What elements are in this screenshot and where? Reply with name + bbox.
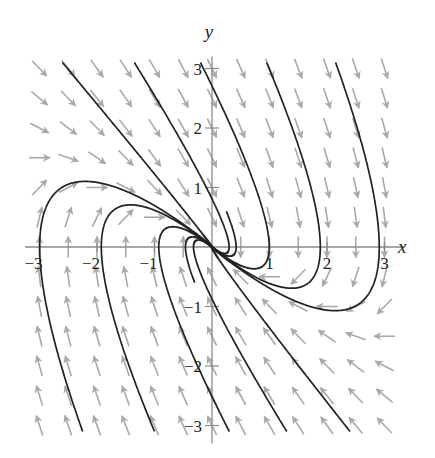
field-arrow-icon [348, 388, 363, 403]
y-tick-label: −1 [184, 298, 202, 317]
y-tick-label: −3 [184, 417, 202, 436]
field-arrow-icon [347, 360, 364, 373]
field-arrow-icon [92, 208, 101, 227]
field-arrow-icon [236, 416, 246, 435]
field-arrow-icon [262, 299, 277, 314]
field-arrow-icon [178, 179, 189, 197]
field-arrow-icon [291, 329, 306, 344]
field-arrow-icon [325, 177, 330, 197]
field-arrow-icon [118, 210, 133, 225]
field-arrow-icon [324, 148, 330, 168]
x-tick-label: −2 [82, 254, 100, 273]
field-arrow-icon [354, 207, 357, 228]
field-arrow-icon [122, 386, 129, 406]
field-arrow-icon [353, 88, 359, 108]
field-arrow-icon [91, 60, 103, 77]
field-arrow-icon [123, 296, 129, 316]
field-arrow-icon [295, 88, 302, 108]
trajectory-curve [212, 211, 236, 256]
field-arrow-icon [149, 89, 160, 107]
x-tick-label: −3 [24, 254, 42, 273]
field-arrow-icon [149, 119, 160, 137]
field-arrow-icon [123, 326, 129, 346]
field-arrow-icon [124, 266, 128, 287]
field-arrow-icon [90, 120, 105, 135]
field-arrow-icon [122, 356, 129, 376]
field-arrow-icon [321, 417, 333, 434]
field-arrow-icon [95, 296, 100, 316]
field-arrow-icon [120, 90, 132, 107]
field-arrow-icon [377, 418, 392, 433]
field-arrow-icon [320, 358, 335, 373]
field-arrow-icon [151, 297, 157, 317]
field-arrow-icon [295, 177, 301, 197]
x-tick-label: 3 [380, 254, 389, 273]
field-arrow-icon [293, 417, 304, 435]
field-arrow-icon [237, 178, 245, 198]
field-arrow-icon [93, 416, 100, 436]
trajectory-curve [101, 205, 211, 432]
field-arrow-icon [296, 207, 300, 228]
field-arrow-icon [180, 267, 186, 287]
field-arrow-icon [263, 328, 275, 345]
field-arrow-icon [118, 150, 133, 165]
field-arrow-icon [237, 118, 245, 137]
field-arrow-icon [318, 330, 335, 342]
trajectory-curve [159, 227, 230, 432]
field-arrow-icon [94, 356, 100, 376]
field-arrow-icon [352, 59, 359, 79]
field-arrow-icon [325, 207, 328, 228]
field-arrow-icon [178, 119, 188, 137]
field-arrow-icon [31, 92, 47, 105]
field-arrow-icon [382, 118, 388, 138]
field-arrow-icon [88, 152, 105, 164]
field-arrow-icon [349, 417, 362, 433]
field-arrow-icon [292, 387, 304, 404]
x-axis-label: x [397, 236, 407, 257]
field-arrow-icon [151, 356, 159, 376]
field-arrow-icon [148, 149, 160, 166]
field-arrow-icon [266, 89, 274, 108]
field-arrow-icon [67, 266, 70, 287]
field-arrow-icon [235, 327, 246, 345]
field-arrow-icon [65, 416, 72, 436]
field-arrow-icon [375, 361, 394, 371]
field-arrow-icon [295, 118, 302, 138]
field-arrow-icon [323, 59, 330, 79]
field-arrow-icon [178, 89, 188, 108]
field-arrow-icon [32, 180, 47, 195]
x-tick-label: −1 [139, 254, 157, 273]
field-arrow-icon [61, 91, 76, 106]
field-arrow-icon [65, 207, 71, 227]
field-arrow-icon [147, 180, 162, 195]
field-arrow-icon [238, 207, 244, 227]
field-arrow-icon [266, 148, 273, 168]
field-arrow-icon [353, 148, 358, 168]
field-arrow-icon [179, 386, 187, 405]
field-arrow-icon [66, 326, 71, 346]
y-axis-label: y [203, 21, 214, 42]
field-arrow-icon [353, 267, 359, 287]
field-arrow-icon [267, 207, 272, 227]
field-arrow-icon [324, 88, 331, 108]
field-arrow-icon [36, 416, 42, 436]
field-arrow-icon [65, 356, 71, 376]
field-arrow-icon [94, 386, 101, 406]
y-tick-label: 3 [194, 60, 203, 79]
field-arrow-icon [346, 333, 366, 340]
y-tick-label: 2 [194, 119, 203, 138]
field-arrow-icon [383, 177, 387, 198]
field-arrow-icon [235, 298, 246, 316]
field-arrow-icon [264, 357, 275, 375]
field-arrow-icon [236, 59, 245, 78]
field-arrow-icon [36, 386, 42, 406]
field-arrow-icon [266, 178, 272, 198]
x-tick-label: 1 [265, 254, 274, 273]
field-arrow-icon [354, 177, 358, 198]
x-tick-label: 2 [323, 254, 332, 273]
field-arrow-icon [294, 59, 302, 79]
field-arrow-icon [376, 389, 392, 402]
field-arrow-icon [37, 356, 43, 376]
field-arrow-icon [120, 60, 131, 78]
field-arrow-icon [236, 386, 246, 405]
